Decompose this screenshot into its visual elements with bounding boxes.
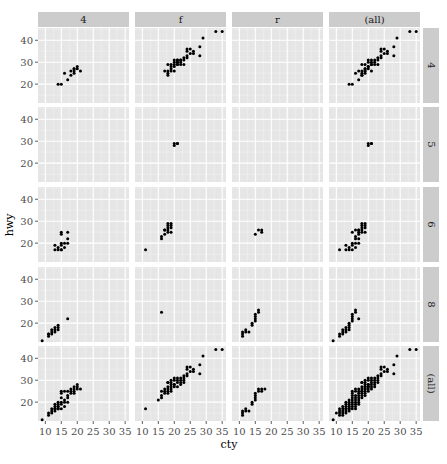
y-tick-label: 40: [20, 194, 33, 205]
x-tick-label: 30: [394, 426, 407, 437]
data-point: [63, 246, 66, 249]
data-point: [60, 403, 63, 406]
data-point: [354, 403, 357, 406]
data-point: [170, 65, 173, 68]
data-point: [166, 381, 169, 384]
data-point: [221, 348, 224, 351]
y-axis-title: hwy: [3, 213, 16, 237]
data-point: [373, 379, 376, 382]
data-point: [364, 226, 367, 229]
data-point: [360, 231, 363, 234]
x-tick-label: 30: [297, 426, 310, 437]
data-point: [63, 398, 66, 401]
panel-cyl-4-drv-r: [232, 28, 323, 103]
data-point: [344, 248, 347, 251]
data-point: [57, 324, 60, 327]
data-point: [373, 61, 376, 64]
x-tick-label: 20: [71, 426, 84, 437]
data-point: [338, 248, 341, 251]
data-point: [166, 385, 169, 388]
y-tick-label: 40: [20, 35, 33, 46]
row-strip-label: 5: [426, 141, 437, 147]
data-point: [360, 224, 363, 227]
data-point: [360, 394, 363, 397]
x-tick-label: 10: [136, 426, 149, 437]
data-point: [254, 398, 257, 401]
data-point: [341, 405, 344, 408]
data-point: [344, 244, 347, 247]
panel-cyl-6-drv-4: [38, 187, 129, 262]
data-point: [257, 228, 260, 231]
data-point: [357, 392, 360, 395]
x-tick-label: 15: [249, 426, 262, 437]
panel-cyl-5-drv-r: [232, 107, 323, 182]
data-point: [247, 330, 250, 333]
data-point: [160, 237, 163, 240]
data-point: [257, 308, 260, 311]
column-strip-label: (all): [364, 14, 384, 25]
data-point: [354, 246, 357, 249]
data-point: [386, 370, 389, 373]
data-point: [179, 383, 182, 386]
row-strip-5: 5: [423, 107, 439, 182]
data-point: [69, 74, 72, 77]
data-point: [354, 72, 357, 75]
data-point: [338, 414, 341, 417]
data-point: [66, 394, 69, 397]
y-axis: 203040203040203040203040203040: [20, 35, 38, 408]
data-point: [380, 372, 383, 375]
data-point: [348, 409, 351, 412]
data-point: [57, 328, 60, 331]
data-point: [364, 379, 367, 382]
data-point: [241, 414, 244, 417]
x-tick-label: 30: [103, 426, 116, 437]
data-point: [364, 63, 367, 66]
column-strip-f: f: [135, 12, 226, 27]
data-point: [41, 418, 44, 421]
data-point: [348, 322, 351, 325]
data-point: [247, 409, 250, 412]
data-point: [370, 63, 373, 66]
data-point: [173, 142, 176, 145]
data-point: [73, 67, 76, 70]
row-strip-6: 6: [423, 187, 439, 262]
data-point: [76, 387, 79, 390]
data-point: [415, 348, 418, 351]
data-point: [198, 363, 201, 366]
data-point: [357, 237, 360, 240]
data-point: [63, 390, 66, 393]
x-tick-label: 25: [378, 426, 391, 437]
data-point: [357, 317, 360, 320]
data-point: [69, 69, 72, 72]
row-strip-label: 4: [426, 62, 437, 68]
data-point: [351, 394, 354, 397]
x-tick-label: 10: [330, 426, 343, 437]
x-tick-label: 25: [87, 426, 100, 437]
data-point: [348, 246, 351, 249]
data-point: [373, 385, 376, 388]
data-point: [182, 59, 185, 62]
panel-cyl-8-drv-(all): [329, 267, 420, 342]
data-point: [364, 394, 367, 397]
data-point: [383, 370, 386, 373]
data-point: [73, 72, 76, 75]
data-point: [176, 385, 179, 388]
data-point: [357, 387, 360, 390]
data-point: [370, 59, 373, 62]
data-point: [57, 407, 60, 410]
panel-cyl-5-drv-4: [38, 107, 129, 182]
data-point: [41, 339, 44, 342]
data-point: [364, 222, 367, 225]
data-point: [354, 308, 357, 311]
data-point: [351, 319, 354, 322]
y-tick-label: 30: [20, 57, 33, 68]
x-tick-label: 35: [119, 426, 132, 437]
data-point: [214, 348, 217, 351]
data-point: [157, 398, 160, 401]
data-point: [189, 370, 192, 373]
data-point: [360, 74, 363, 77]
data-point: [202, 37, 205, 40]
data-point: [50, 333, 53, 336]
panel-cyl-5-drv-(all): [329, 107, 420, 182]
data-point: [370, 69, 373, 72]
